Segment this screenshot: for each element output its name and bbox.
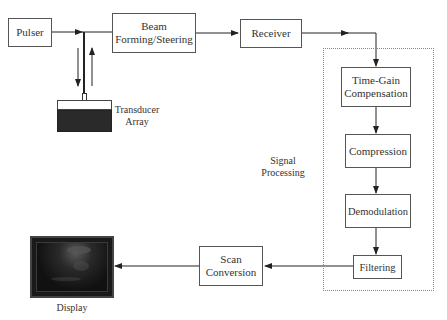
signal-processing-label: Signal Processing: [248, 155, 318, 179]
compression-block: Compression: [345, 134, 411, 168]
scan-conversion-label: Scan Conversion: [200, 253, 262, 279]
beam-forming-label: Beam Forming/Steering: [115, 20, 193, 46]
receiver-block: Receiver: [240, 19, 302, 48]
scan-conversion-block: Scan Conversion: [199, 246, 263, 286]
tgc-block: Time-Gain Compensation: [341, 67, 411, 107]
demodulation-label: Demodulation: [348, 205, 408, 218]
transducer-label: Transducer Array: [112, 104, 162, 128]
transducer-body-icon: [57, 110, 112, 132]
transducer-icon: [57, 100, 112, 110]
compression-label: Compression: [349, 145, 407, 158]
tgc-label: Time-Gain Compensation: [342, 74, 410, 100]
display-monitor-icon: [30, 236, 114, 298]
ultrasound-image: [36, 242, 108, 292]
filtering-label: Filtering: [359, 261, 395, 274]
receiver-label: Receiver: [251, 27, 290, 40]
pulser-label: Pulser: [16, 26, 44, 39]
beam-forming-block: Beam Forming/Steering: [112, 13, 196, 53]
pulser-block: Pulser: [8, 18, 52, 47]
display-label: Display: [42, 302, 102, 314]
demodulation-block: Demodulation: [345, 194, 411, 228]
filtering-block: Filtering: [353, 255, 402, 279]
